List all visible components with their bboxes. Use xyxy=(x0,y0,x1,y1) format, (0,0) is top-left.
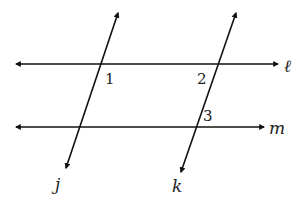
angle-3-label: 3 xyxy=(203,107,213,125)
line-m-label: m xyxy=(269,118,285,138)
line-l-label: ℓ xyxy=(284,56,291,76)
line-k-transversal xyxy=(181,13,236,172)
angle-1-label: 1 xyxy=(105,70,115,88)
line-j-label: j xyxy=(51,174,61,194)
angle-2-label: 2 xyxy=(197,70,207,88)
line-k-label: k xyxy=(172,176,182,196)
geometry-diagram: ℓ m j k 1 2 3 xyxy=(0,0,298,205)
line-j-transversal xyxy=(66,13,118,168)
